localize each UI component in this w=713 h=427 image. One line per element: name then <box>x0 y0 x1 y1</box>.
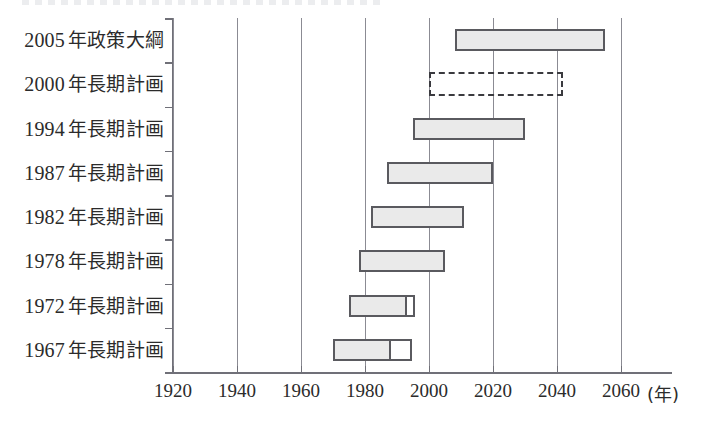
bar-open-tail-segment <box>389 339 411 361</box>
row-label-1982: 1982年長期計画 <box>24 195 164 239</box>
y-axis-tick <box>165 62 173 64</box>
x-axis-label-1940: 1940 <box>218 380 256 402</box>
y-axis-tick <box>165 151 173 153</box>
row-label-suffix: 年長期計画 <box>68 118 164 140</box>
x-axis-tick <box>301 366 302 374</box>
bar-1967 <box>333 339 410 361</box>
y-axis-tick <box>165 107 173 109</box>
row-label-2000: 2000年長期計画 <box>24 62 164 106</box>
dashed-edge-right <box>561 72 563 96</box>
row-label-year: 1987 <box>24 162 65 184</box>
dashed-edge-left <box>429 72 431 96</box>
row-label-year: 2000 <box>24 73 65 95</box>
row-label-year: 1967 <box>24 339 65 361</box>
x-axis-tick <box>493 366 494 374</box>
y-axis-tick <box>165 372 173 374</box>
row-label-1978: 1978年長期計画 <box>24 239 164 283</box>
x-axis-tick <box>429 366 430 374</box>
gridline-2020 <box>493 18 494 372</box>
row-label-suffix: 年長期計画 <box>68 295 164 317</box>
row-label-1967: 1967年長期計画 <box>24 328 164 372</box>
row-label-year: 1978 <box>24 250 65 272</box>
y-axis-tick <box>165 239 173 241</box>
x-axis-tick <box>621 366 622 374</box>
bar-1972 <box>349 295 413 317</box>
x-axis-label-2040: 2040 <box>538 380 576 402</box>
x-axis-label-1920: 1920 <box>154 380 192 402</box>
x-axis-unit-label: (年) <box>647 380 679 406</box>
x-axis-label-1960: 1960 <box>282 380 320 402</box>
row-label-suffix: 年長期計画 <box>68 250 164 272</box>
gridline-2060 <box>621 18 622 372</box>
bar-1978 <box>359 250 445 272</box>
x-axis-line <box>172 372 672 374</box>
row-label-year: 1994 <box>24 118 65 140</box>
x-axis-label-2020: 2020 <box>474 380 512 402</box>
gridline-1920 <box>173 18 174 372</box>
row-label-1987: 1987年長期計画 <box>24 151 164 195</box>
bar-1982 <box>371 206 464 228</box>
x-axis-label-2000: 2000 <box>410 380 448 402</box>
gridline-1940 <box>237 18 238 372</box>
row-label-suffix: 年長期計画 <box>68 162 164 184</box>
row-label-year: 1982 <box>24 206 65 228</box>
bar-open-tail-segment <box>405 295 415 317</box>
gantt-chart: 2005年政策大綱2000年長期計画1994年長期計画1987年長期計画1982… <box>0 0 713 427</box>
bar-2000 <box>429 72 563 96</box>
gridline-1960 <box>301 18 302 372</box>
gridline-1980 <box>365 18 366 372</box>
row-label-1972: 1972年長期計画 <box>24 284 164 328</box>
row-label-suffix: 年長期計画 <box>68 339 164 361</box>
x-axis-tick <box>557 366 558 374</box>
y-axis-tick <box>165 195 173 197</box>
bar-2005 <box>455 29 605 51</box>
gridline-2000 <box>429 18 430 372</box>
row-label-suffix: 年政策大綱 <box>68 29 164 51</box>
dashed-edge-bottom <box>429 94 563 96</box>
x-axis-label-1980: 1980 <box>346 380 384 402</box>
plot-area: 19201940196019802000202020402060(年) <box>172 18 672 372</box>
y-axis-tick <box>165 328 173 330</box>
x-axis-tick <box>365 366 366 374</box>
y-axis-tick <box>165 18 173 20</box>
row-label-suffix: 年長期計画 <box>68 73 164 95</box>
row-label-suffix: 年長期計画 <box>68 206 164 228</box>
row-label-column: 2005年政策大綱2000年長期計画1994年長期計画1987年長期計画1982… <box>0 18 172 372</box>
row-label-2005: 2005年政策大綱 <box>24 18 164 62</box>
y-axis-tick <box>165 284 173 286</box>
bar-1994 <box>413 118 525 140</box>
x-axis-tick <box>237 366 238 374</box>
row-label-1994: 1994年長期計画 <box>24 107 164 151</box>
bar-1987 <box>387 162 493 184</box>
row-label-year: 2005 <box>24 29 65 51</box>
gridline-2040 <box>557 18 558 372</box>
dashed-edge-top <box>429 72 563 74</box>
cropped-caption-remnant <box>22 0 382 5</box>
x-axis-label-2060: 2060 <box>602 380 640 402</box>
x-axis-tick <box>173 366 174 374</box>
row-label-year: 1972 <box>24 295 65 317</box>
